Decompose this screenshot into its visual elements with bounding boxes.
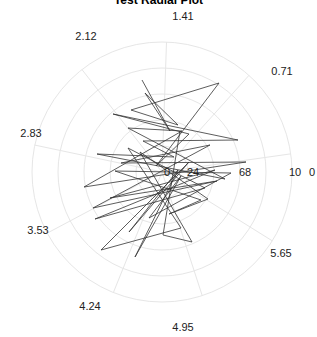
angular-tick-label: 0.71 — [271, 65, 292, 77]
angular-spokes — [35, 42, 291, 296]
angular-tick-label: 0 — [309, 166, 315, 178]
angular-tick-label: 4.95 — [172, 321, 193, 333]
chart-title: Test Radial Plot — [0, 0, 317, 7]
radial-tick-label: 68 — [239, 166, 251, 178]
angular-tick-label: 1.41 — [172, 10, 193, 22]
angular-tick-label: 2.12 — [75, 30, 96, 42]
radial-plot: Test Radial Plot 00.711.412.122.833.534.… — [0, 0, 317, 337]
angular-tick-label: 3.53 — [27, 224, 48, 236]
radial-tick-label: 10 — [289, 166, 301, 178]
angular-tick-label: 2.83 — [20, 127, 41, 139]
radial-tick-label: 0 — [164, 166, 170, 178]
plot-canvas — [0, 0, 317, 337]
angular-tick-label: 4.24 — [79, 300, 100, 312]
grid-spoke — [82, 70, 162, 172]
grid-spoke — [113, 172, 162, 293]
angular-tick-label: 5.65 — [270, 247, 291, 259]
radial-tick-label: 24 — [187, 166, 199, 178]
grid-spoke — [162, 172, 272, 241]
